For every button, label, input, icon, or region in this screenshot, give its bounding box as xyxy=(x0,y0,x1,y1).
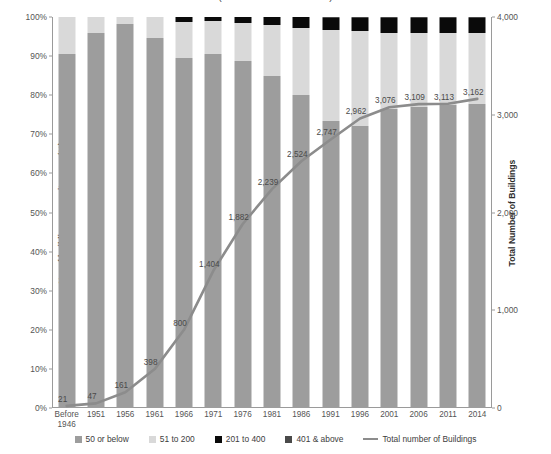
bar-segment[interactable] xyxy=(117,24,134,408)
x-category-label: 2014 xyxy=(463,410,492,429)
stacked-bar[interactable] xyxy=(87,17,104,408)
bar-segment[interactable] xyxy=(175,58,192,408)
bar-segment[interactable] xyxy=(410,107,427,408)
bar-segment[interactable] xyxy=(293,95,310,408)
bar-segment[interactable] xyxy=(322,121,339,408)
bar-segment[interactable] xyxy=(234,23,251,61)
stacked-bar[interactable] xyxy=(58,17,75,408)
right-tick-mark xyxy=(492,212,495,213)
line-point-label: 800 xyxy=(173,320,187,328)
left-tick-label: 40% xyxy=(30,247,47,255)
bar-column[interactable] xyxy=(169,17,198,408)
bar-segment[interactable] xyxy=(205,21,222,53)
line-point-label: 3,162 xyxy=(463,89,484,97)
bar-segment[interactable] xyxy=(381,18,398,33)
bar-segment[interactable] xyxy=(263,17,280,25)
chart-legend: 50 or below51 to 200201 to 400401 & abov… xyxy=(0,434,551,444)
legend-label: 51 to 200 xyxy=(160,434,195,444)
bar-column[interactable] xyxy=(257,17,286,408)
bar-segment[interactable] xyxy=(322,30,339,121)
bar-columns xyxy=(52,17,492,408)
bar-segment[interactable] xyxy=(58,54,75,408)
left-tick-label: 70% xyxy=(30,130,47,138)
x-axis-labels: Before1946195119561961196619711976198119… xyxy=(52,410,492,429)
bar-column[interactable] xyxy=(316,17,345,408)
bar-segment[interactable] xyxy=(234,61,251,408)
x-category-label: 2011 xyxy=(433,410,462,429)
x-category-label: 1981 xyxy=(257,410,286,429)
bar-segment[interactable] xyxy=(410,18,427,34)
x-category-label: 1986 xyxy=(287,410,316,429)
bar-segment[interactable] xyxy=(87,17,104,33)
bar-segment[interactable] xyxy=(58,17,75,54)
bar-segment[interactable] xyxy=(263,76,280,408)
bar-column[interactable] xyxy=(81,17,110,408)
line-point-label: 1,404 xyxy=(199,261,220,269)
legend-swatch xyxy=(215,436,222,443)
stacked-bar[interactable] xyxy=(117,17,134,408)
right-tick-label: 4,000 xyxy=(497,13,518,21)
plot-area: 0%10%20%30%40%50%60%70%80%90%100% 01,000… xyxy=(52,17,492,408)
bar-segment[interactable] xyxy=(293,17,310,28)
stacked-bar[interactable] xyxy=(351,17,368,408)
bar-segment[interactable] xyxy=(439,18,456,34)
bar-segment[interactable] xyxy=(469,18,486,34)
legend-item[interactable]: 401 & above xyxy=(285,434,343,444)
stacked-bar[interactable] xyxy=(146,17,163,408)
right-tick-mark xyxy=(492,114,495,115)
left-tick-label: 0% xyxy=(35,404,47,412)
bar-column[interactable] xyxy=(433,17,462,408)
chart-container: (As at 31 December 2014) 0%10%20%30%40%5… xyxy=(0,0,551,454)
bar-column[interactable] xyxy=(345,17,374,408)
legend-item[interactable]: 201 to 400 xyxy=(215,434,266,444)
x-category-label: 1976 xyxy=(228,410,257,429)
bar-segment[interactable] xyxy=(87,33,104,408)
x-category-label: 1961 xyxy=(140,410,169,429)
stacked-bar[interactable] xyxy=(293,17,310,408)
right-tick-label: 1,000 xyxy=(497,306,518,314)
bar-segment[interactable] xyxy=(381,109,398,408)
bar-column[interactable] xyxy=(140,17,169,408)
stacked-bar[interactable] xyxy=(205,17,222,408)
bar-column[interactable] xyxy=(287,17,316,408)
bar-segment[interactable] xyxy=(146,38,163,408)
bar-segment[interactable] xyxy=(322,18,339,30)
x-category-label: 1956 xyxy=(111,410,140,429)
stacked-bar[interactable] xyxy=(175,17,192,408)
line-point-label: 21 xyxy=(58,396,67,404)
legend-label: 201 to 400 xyxy=(226,434,266,444)
right-tick-label: 0 xyxy=(497,404,502,412)
line-point-label: 3,109 xyxy=(404,94,425,102)
bar-segment[interactable] xyxy=(351,18,368,31)
bar-segment[interactable] xyxy=(205,54,222,408)
bar-segment[interactable] xyxy=(117,17,134,24)
bar-column[interactable] xyxy=(52,17,81,408)
stacked-bar[interactable] xyxy=(439,17,456,408)
stacked-bar[interactable] xyxy=(263,17,280,408)
stacked-bar[interactable] xyxy=(381,17,398,408)
x-category-label: 1996 xyxy=(345,410,374,429)
stacked-bar[interactable] xyxy=(322,17,339,408)
left-tick-label: 20% xyxy=(30,326,47,334)
legend-item[interactable]: 51 to 200 xyxy=(149,434,195,444)
bar-segment[interactable] xyxy=(175,22,192,58)
bar-segment[interactable] xyxy=(146,17,163,38)
legend-item[interactable]: 50 or below xyxy=(75,434,129,444)
bar-segment[interactable] xyxy=(439,105,456,408)
stacked-bar[interactable] xyxy=(469,17,486,408)
bar-column[interactable] xyxy=(199,17,228,408)
bar-segment[interactable] xyxy=(263,25,280,75)
bar-column[interactable] xyxy=(111,17,140,408)
bar-column[interactable] xyxy=(463,17,492,408)
legend-item[interactable]: Total number of Buildings xyxy=(363,434,476,444)
legend-swatch xyxy=(149,436,156,443)
stacked-bar[interactable] xyxy=(410,17,427,408)
line-point-label: 2,747 xyxy=(316,129,337,137)
bar-segment[interactable] xyxy=(469,104,486,408)
x-category-label: Before1946 xyxy=(52,410,81,429)
chart-title: (As at 31 December 2014) xyxy=(0,0,551,2)
bar-segment[interactable] xyxy=(351,126,368,408)
bar-column[interactable] xyxy=(404,17,433,408)
bar-segment[interactable] xyxy=(293,28,310,95)
bar-column[interactable] xyxy=(375,17,404,408)
